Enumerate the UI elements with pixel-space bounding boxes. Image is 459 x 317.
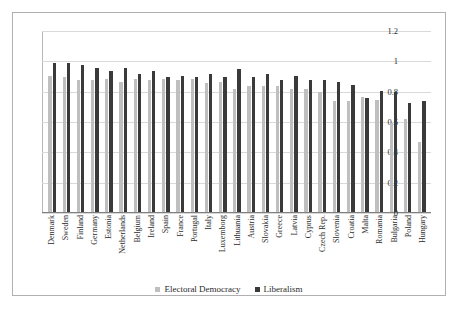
bar-group (159, 31, 173, 212)
x-axis-label-slot: Poland (402, 215, 416, 283)
x-axis-category-label: Netherlands (119, 215, 127, 254)
x-axis-label-slot: Lithuania (230, 215, 244, 283)
bar-group (116, 31, 130, 212)
bar (266, 74, 269, 212)
bar-group (230, 31, 244, 212)
x-axis-label-slot: Germany (88, 215, 102, 283)
bar (333, 101, 336, 212)
bar-group (88, 31, 102, 212)
chart-legend: Electoral DemocracyLiberalism (13, 285, 445, 294)
x-axis-label-slot: Denmark (45, 215, 59, 283)
x-axis-label-slot: Malta (359, 215, 373, 283)
x-axis-category-label: Luxemborg (219, 215, 227, 252)
bar (152, 71, 155, 212)
bar (375, 100, 378, 212)
bar-group (201, 31, 215, 212)
legend-item[interactable]: Electoral Democracy (155, 285, 240, 294)
bar (205, 83, 208, 212)
bar (237, 69, 240, 212)
square-marker-icon (255, 287, 260, 292)
bar (290, 89, 293, 212)
bar-group (329, 31, 343, 212)
x-axis-category-label: Belgium (134, 215, 142, 243)
x-axis-category-label: Finland (77, 215, 85, 239)
bar (105, 79, 108, 212)
x-axis-label-slot: Italy (202, 215, 216, 283)
bar (247, 86, 250, 212)
bar (195, 77, 198, 212)
bar (148, 80, 151, 212)
bar (347, 101, 350, 212)
x-axis-category-labels: DenmarkSwedenFinlandGermanyEstoniaNether… (43, 215, 432, 283)
x-axis-label-slot: Slovakia (259, 215, 273, 283)
bar-group (287, 31, 301, 212)
bar (361, 97, 364, 212)
x-axis-label-slot: Romania (373, 215, 387, 283)
x-axis-label-slot: Slovenia (330, 215, 344, 283)
x-axis-category-label: Bulgaria (391, 215, 399, 243)
bar (124, 68, 127, 212)
bar-group (344, 31, 358, 212)
x-axis-label-slot: Greece (273, 215, 287, 283)
x-axis-category-label: Cyprus (305, 215, 313, 238)
bar (422, 101, 425, 212)
x-axis-label-slot: France (173, 215, 187, 283)
bar-series-group (43, 31, 431, 212)
bar (262, 86, 265, 212)
bar (394, 92, 397, 212)
x-axis-category-label: Poland (405, 215, 413, 237)
x-axis-label-slot: Luxemborg (216, 215, 230, 283)
x-axis-label-slot: Belgium (131, 215, 145, 283)
bar (418, 142, 421, 212)
x-axis-category-label: Austria (248, 215, 256, 239)
bar (318, 92, 321, 212)
bar-group (273, 31, 287, 212)
x-axis-label-slot: Sweden (59, 215, 73, 283)
bar (252, 77, 255, 212)
x-axis-label-slot: Portugal (188, 215, 202, 283)
square-marker-icon (155, 287, 160, 292)
bar-group (59, 31, 73, 212)
x-axis-category-label: Czech Rep. (319, 215, 327, 252)
bar (162, 79, 165, 212)
bar-group (372, 31, 386, 212)
bar-group (145, 31, 159, 212)
x-axis-category-label: Spain (162, 215, 170, 233)
x-axis-category-label: Italy (205, 215, 213, 230)
x-axis-label-slot: Latvia (288, 215, 302, 283)
bar-group (73, 31, 87, 212)
bar (95, 68, 98, 212)
bar (63, 77, 66, 212)
x-axis-label-slot: Austria (245, 215, 259, 283)
bar (176, 80, 179, 212)
bar (233, 89, 236, 212)
x-axis-category-label: Slovenia (333, 215, 341, 243)
legend-label: Liberalism (264, 285, 303, 294)
bar (223, 77, 226, 212)
x-axis-label-slot: Hungary (416, 215, 430, 283)
legend-item[interactable]: Liberalism (255, 285, 303, 294)
bar (138, 74, 141, 212)
bar-group (415, 31, 429, 212)
plot-area: 00.20.40.60.811.2 (42, 31, 431, 213)
bar (48, 76, 51, 213)
bar-group (358, 31, 372, 212)
bar-group (258, 31, 272, 212)
bar (166, 77, 169, 212)
bar (276, 86, 279, 212)
bar-group (315, 31, 329, 212)
bar-group (102, 31, 116, 212)
x-axis-label-slot: Czech Rep. (316, 215, 330, 283)
bar (67, 63, 70, 212)
bar-group (173, 31, 187, 212)
x-axis-category-label: Estonia (105, 215, 113, 239)
bar (53, 63, 56, 212)
legend-label: Electoral Democracy (164, 285, 240, 294)
x-axis-label-slot: Estonia (102, 215, 116, 283)
bar (280, 80, 283, 212)
bar (408, 103, 411, 212)
x-axis-category-label: Sweden (62, 215, 70, 240)
x-axis-label-slot: Ireland (145, 215, 159, 283)
bar (309, 80, 312, 212)
bar (390, 123, 393, 212)
